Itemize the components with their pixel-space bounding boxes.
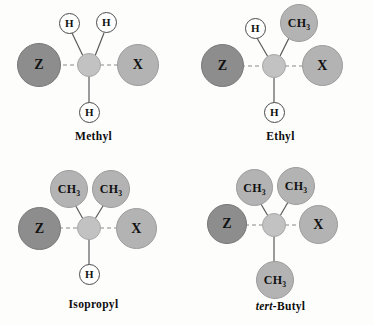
substituent-upper-left-label: CH3 [58, 183, 80, 195]
caption-tert-butyl: tert-Butyl [187, 300, 374, 312]
atom-z-label: Z [222, 217, 232, 231]
caption-tert-butyl-text: Butyl [277, 300, 305, 312]
substituent-upper-left-label: H [65, 18, 74, 29]
caption-ethyl: Ethyl [187, 130, 374, 142]
atom-central-carbon [77, 216, 101, 240]
atom-x-label: X [133, 58, 143, 72]
substituent-upper-left-hydrogen: H [59, 13, 80, 34]
caption-isopropyl: Isopropyl [0, 298, 187, 310]
atom-x-nucleophile: X [117, 44, 159, 86]
atom-x-label: X [313, 218, 323, 232]
methyl-structure: Z X H H H [0, 0, 187, 135]
caption-methyl-text: Methyl [75, 130, 112, 142]
substituent-upper-right-methyl: CH3 [277, 167, 315, 205]
substituent-upper-right-methyl: CH3 [92, 170, 130, 208]
substituent-upper-right-label: CH3 [100, 183, 122, 195]
bond-center-upperright [95, 33, 104, 56]
atom-central-carbon [262, 213, 286, 237]
atom-x-nucleophile: X [302, 45, 343, 86]
substituent-upper-right-label: H [102, 17, 111, 28]
atom-z-leaving-group: Z [207, 204, 247, 244]
panel-isopropyl: Z X CH3 CH3 H Isopropyl [0, 163, 187, 325]
atom-z-label: Z [35, 222, 45, 236]
substituent-upper-right-label: CH3 [285, 180, 307, 192]
caption-methyl: Methyl [0, 130, 187, 142]
caption-isopropyl-text: Isopropyl [69, 298, 119, 310]
tert-butyl-structure: Z X CH3 CH3 CH3 [187, 163, 374, 298]
isopropyl-structure: Z X CH3 CH3 H [0, 163, 187, 298]
caption-ethyl-text: Ethyl [266, 130, 294, 142]
substituent-upper-right-label: CH3 [288, 17, 310, 29]
substituent-bottom-hydrogen: H [79, 264, 100, 285]
substituent-upper-left-methyl: CH3 [236, 169, 273, 206]
atom-x-label: X [131, 222, 141, 236]
substituent-bottom-hydrogen: H [264, 102, 285, 123]
panel-methyl: Z X H H H Methyl [0, 0, 187, 162]
atom-x-nucleophile: X [299, 205, 338, 244]
atom-z-leaving-group: Z [201, 44, 244, 87]
atom-z-leaving-group: Z [17, 43, 61, 87]
panel-ethyl: Z X H CH3 H Ethyl [187, 0, 374, 162]
atom-central-carbon [77, 53, 101, 77]
substituent-bottom-hydrogen: H [79, 102, 100, 123]
substituent-bottom-label: H [270, 107, 279, 118]
caption-tert-prefix: tert- [256, 300, 277, 312]
bond-center-upperleft [72, 33, 83, 56]
atom-x-label: X [317, 59, 327, 73]
ethyl-structure: Z X H CH3 H [187, 0, 374, 135]
substituent-bottom-methyl: CH3 [256, 261, 294, 299]
panel-tert-butyl: Z X CH3 CH3 CH3 tert-Butyl [187, 163, 374, 325]
substituent-upper-left-label: CH3 [243, 182, 265, 194]
substituent-bottom-label: H [85, 107, 94, 118]
substituent-upper-right-hydrogen: H [96, 12, 117, 33]
substituent-bottom-label: H [85, 269, 94, 280]
substituent-upper-right-methyl: CH3 [280, 4, 318, 42]
atom-z-label: Z [34, 58, 44, 72]
substituent-upper-left-label: H [251, 23, 260, 34]
reaction-diagram-figure: Z X H H H Methyl [0, 0, 374, 325]
atom-x-nucleophile: X [116, 208, 157, 249]
atom-z-label: Z [218, 59, 228, 73]
substituent-upper-left-methyl: CH3 [50, 170, 88, 208]
substituent-bottom-label: CH3 [264, 274, 286, 286]
atom-z-leaving-group: Z [18, 207, 61, 250]
bond-center-upperleft [257, 38, 268, 57]
substituent-upper-left-hydrogen: H [245, 18, 266, 39]
atom-central-carbon [262, 54, 286, 78]
